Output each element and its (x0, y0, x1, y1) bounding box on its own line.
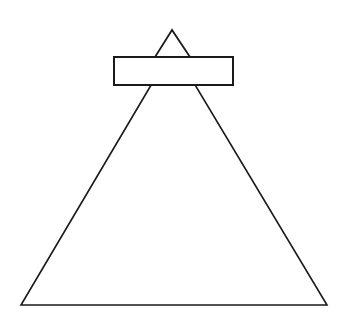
figure-canvas: Line drawing of a lamp-like form A large… (0, 0, 345, 320)
line-drawing-svg: Line drawing of a lamp-like form A large… (0, 0, 345, 320)
small-triangle (155, 30, 190, 57)
large-triangle (21, 48, 327, 305)
rectangle-band (114, 57, 233, 85)
